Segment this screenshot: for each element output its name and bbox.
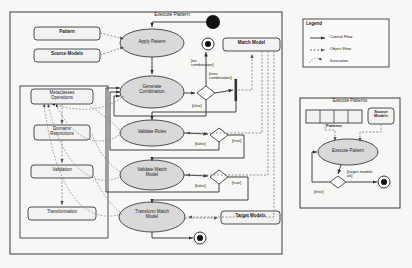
diagram-vector-layer xyxy=(0,0,412,268)
guard-no-combination: [no combination] xyxy=(191,59,225,67)
guard-new-combination-line2: combination] xyxy=(209,75,232,80)
guard-else-generate: [else] xyxy=(192,104,216,108)
guard-no-combination-line2: combination] xyxy=(191,62,214,67)
sub-guard-target-ok: [target models ok] xyxy=(347,170,387,178)
sub-guard-target-ok-line2: ok] xyxy=(347,173,352,178)
guard-false-match: [false] xyxy=(195,184,219,188)
guard-true-match: [true] xyxy=(232,181,254,185)
diagram-canvas: Execute Pattern Pattern Source Models Ma… xyxy=(0,0,412,268)
guard-true-roles: [true] xyxy=(232,139,254,143)
guard-new-combination: [new combination] xyxy=(209,72,245,80)
sub-guard-else: [else] xyxy=(314,190,338,194)
guard-false-roles: [false] xyxy=(195,142,219,146)
